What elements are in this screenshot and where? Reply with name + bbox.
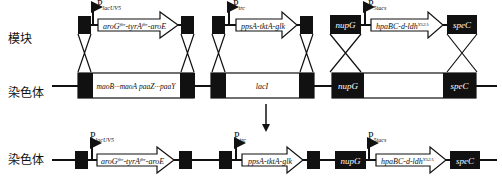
svg-text:P5tacs: P5tacs	[368, 0, 387, 11]
lacI-label: lacI	[256, 82, 269, 91]
homology-arm-right-2	[300, 16, 313, 34]
result-gene-label-pps: ppsA-tktA-glk	[247, 157, 292, 166]
svg-text:Ptrc: Ptrc	[233, 0, 245, 11]
homology-region-3	[211, 73, 226, 98]
module-row: PlacUV5 aroGfbr-tyrAfbr-aroE Ptrc ppsA-t…	[78, 0, 477, 38]
genetic-construct-diagram: PlacUV5 aroGfbr-tyrAfbr-aroE Ptrc ppsA-t…	[0, 0, 502, 189]
result-speC-label: speC	[456, 156, 475, 166]
homology-arm-left-1	[78, 16, 91, 34]
homology-arm-left-2	[212, 16, 225, 34]
result-homology-1	[75, 151, 88, 169]
gene-label-aro: aroGfbr-tyrAfbr-aroE	[103, 22, 166, 31]
promoter-sub: 5tacs	[374, 5, 387, 11]
svg-text:PlacUV5: PlacUV5	[97, 0, 121, 11]
down-arrow-icon	[262, 104, 270, 132]
chromosome-nupG-label: nupG	[338, 81, 359, 91]
result-nupG-label: nupG	[341, 156, 362, 166]
promoter-sub: trc	[240, 137, 247, 143]
svg-text:P5tacs: P5tacs	[368, 130, 387, 143]
gene-label-pps: ppsA-tktA-glk	[240, 22, 285, 31]
promoter-sub: trc	[239, 5, 246, 11]
homology-region-1	[78, 73, 93, 98]
recombination-crossovers	[78, 34, 477, 72]
promoter-sub: lacUV5	[103, 5, 121, 11]
result-homology-2	[179, 151, 192, 169]
chromosome-row: maoB···maoA paaZ···paaY lacI nupG speC	[52, 73, 497, 98]
homology-region-2	[180, 73, 195, 98]
homology-arm-right-1	[181, 16, 194, 34]
mao-paa-region-label: maoB···maoA paaZ···paaY	[97, 82, 177, 91]
result-homology-3	[219, 151, 232, 169]
result-gene-label-aro: aroGfbr-tyrAfbr-aroE	[101, 157, 164, 166]
svg-text:PlacUV5: PlacUV5	[90, 130, 114, 143]
promoter-sub: lacUV5	[96, 137, 114, 143]
speC-label: speC	[453, 20, 472, 30]
result-chromosome-row: PlacUV5 aroGfbr-tyrAfbr-aroE Ptrc ppsA-t…	[52, 130, 497, 173]
promoter-sub: 5tacs	[374, 137, 387, 143]
svg-text:Ptrc: Ptrc	[234, 130, 246, 143]
homology-region-4	[299, 73, 314, 98]
result-homology-4	[307, 151, 320, 169]
nupG-label: nupG	[336, 20, 357, 30]
chromosome-speC-label: speC	[451, 81, 470, 91]
